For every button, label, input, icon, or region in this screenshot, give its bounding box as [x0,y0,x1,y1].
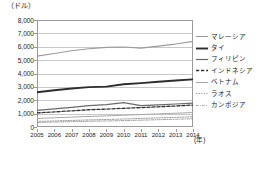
legend-item: タイ [196,42,262,53]
line-chart: （ドル） 8,0007,0006,0005,0004,0003,0002,000… [0,0,264,170]
x-axis: 2005200620072008200920102011201220132014 [0,129,264,147]
legend-line-swatch-icon [196,33,208,40]
legend-label: フィリピン [211,55,246,63]
legend-item: カンボジア [196,99,262,110]
y-axis-tick-label: 3,000 [18,83,34,90]
legend-line-swatch-icon [196,102,208,109]
y-axis-tick-label: 1,000 [18,110,34,117]
y-axis-tick-label: 4,000 [18,70,34,77]
y-axis-tick-label: 2,000 [18,97,34,104]
legend-label: ベトナム [211,78,239,86]
x-axis-tick-label: 2005 [30,132,43,139]
legend-line-swatch-icon [196,45,208,52]
y-axis-tick-label: 5,000 [18,57,34,64]
x-axis-tick-label: 2010 [117,132,130,139]
x-axis-tick-label: 2008 [82,132,95,139]
x-axis-tick-label: 2006 [48,132,61,139]
legend-item: インドネシア [196,65,262,76]
series-line [37,41,193,56]
y-axis-tick-label: 8,000 [18,17,34,24]
x-axis-tick-label: 2007 [65,132,78,139]
series-line [37,105,193,113]
x-axis-tick-label: 2013 [169,132,182,139]
series-layer [37,20,193,127]
legend-label: ラオス [211,90,232,98]
legend-line-swatch-icon [196,90,208,97]
legend-label: マレーシア [211,33,246,41]
legend-item: ベトナム [196,77,262,88]
y-axis-tick-mark [33,127,37,128]
series-line [37,79,193,92]
legend: マレーシアタイフィリピンインドネシアベトナムラオスカンボジア [196,31,262,111]
x-axis-tick-label: 2009 [100,132,113,139]
legend-label: インドネシア [211,67,253,75]
legend-label: カンボジア [211,101,246,109]
legend-item: マレーシア [196,31,262,42]
x-axis-tick-label: 2011 [135,132,148,139]
legend-item: ラオス [196,88,262,99]
y-axis-tick-label: 6,000 [18,43,34,50]
y-axis-tick-label: 7,000 [18,30,34,37]
legend-item: フィリピン [196,54,262,65]
x-axis-tick-label: 2012 [152,132,165,139]
legend-line-swatch-icon [196,79,208,86]
legend-label: タイ [211,44,225,52]
legend-line-swatch-icon [196,67,208,74]
x-axis-unit-label: (年) [194,136,205,144]
legend-line-swatch-icon [196,56,208,63]
